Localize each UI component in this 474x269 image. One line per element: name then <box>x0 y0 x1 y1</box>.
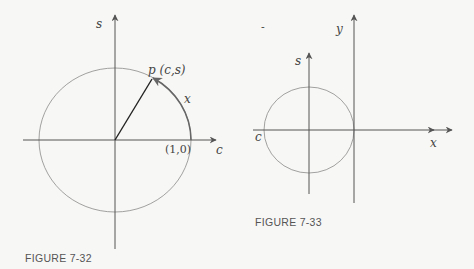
dash-mark: - <box>261 21 265 34</box>
arc-x <box>153 78 191 140</box>
s-axis-label: s <box>295 54 301 68</box>
c-axis-label: c <box>216 143 223 157</box>
x-axis-label: x <box>430 136 437 150</box>
c-axis-label: c <box>255 130 262 144</box>
figure-7-32: s p (c,s) x (1,0) c FIGURE 7-32 <box>23 15 223 264</box>
s-axis-label: s <box>96 17 102 31</box>
y-axis-label: y <box>335 22 343 36</box>
radius-line <box>115 79 152 140</box>
figures-canvas: s p (c,s) x (1,0) c FIGURE 7-32 - y s c … <box>0 0 474 269</box>
intercept-label: (1,0) <box>165 143 191 156</box>
figure-7-33: - y s c x FIGURE 7-33 <box>253 15 452 228</box>
arc-label: x <box>184 92 191 106</box>
figure-caption: FIGURE 7-32 <box>25 252 92 264</box>
point-label: p (c,s) <box>148 63 186 77</box>
figure-caption: FIGURE 7-33 <box>255 216 322 228</box>
